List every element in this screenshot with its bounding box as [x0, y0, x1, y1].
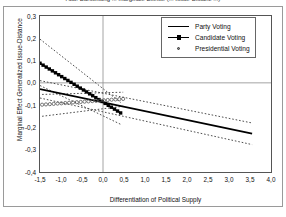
legend-item-candidate-voting[interactable]: Candidate Voting [166, 32, 250, 43]
legend-item-party-voting[interactable]: Party Voting [166, 21, 250, 32]
x-axis-tick-label: 4,0 [258, 176, 284, 184]
y-axis-tick-label: 0,1 [2, 57, 36, 64]
figure-caption: Abb. Darstellung ... marginale Effekte (… [0, 0, 286, 3]
x-axis-label: Differentiation of Political Supply [39, 196, 272, 203]
legend-label: Presidential Voting [192, 45, 250, 52]
y-axis-tick-label: -0,1 [2, 102, 36, 109]
solid-line-icon [166, 21, 192, 32]
y-axis-tick-label: 0,0 [2, 79, 36, 86]
chart-legend: Party Voting Candidate Voting Presidenti… [161, 17, 256, 58]
legend-label: Candidate Voting [192, 34, 245, 41]
line-square-marker-icon [166, 32, 192, 43]
y-axis-tick-label: -0,4 [2, 169, 36, 176]
figure-container: Abb. Darstellung ... marginale Effekte (… [0, 0, 286, 217]
y-axis-tick-label: -0,3 [2, 146, 36, 153]
open-circle-marker-icon [166, 43, 192, 54]
y-axis-ticks: 0,30,20,10,0-0,1-0,2-0,3-0,4 [0, 15, 36, 173]
y-axis-tick-label: 0,2 [2, 35, 36, 42]
legend-item-presidential-voting[interactable]: Presidential Voting [166, 43, 250, 54]
y-axis-tick-label: 0,3 [2, 13, 36, 20]
x-axis-ticks: -1,5-1,0-0,50,00,51,01,52,02,53,03,54,0 [39, 176, 272, 186]
y-axis-tick-label: -0,2 [2, 124, 36, 131]
legend-label: Party Voting [192, 23, 231, 30]
